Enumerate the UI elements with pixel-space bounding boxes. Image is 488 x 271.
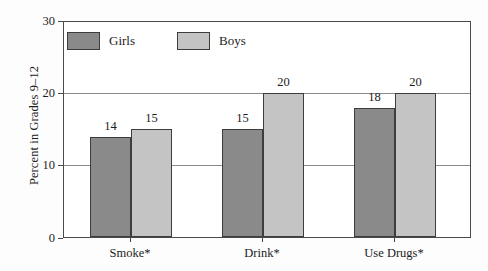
- bar-drugs-girls[interactable]: [354, 108, 395, 237]
- bar-drugs-boys[interactable]: [395, 93, 436, 237]
- bar-value-smoke-boys: 15: [131, 112, 172, 124]
- bar-smoke-boys[interactable]: [131, 129, 172, 237]
- bar-value-drink-girls: 15: [222, 112, 263, 124]
- bar-drink-girls[interactable]: [222, 129, 263, 237]
- bar-smoke-girls[interactable]: [90, 137, 131, 237]
- x-tick-mark-1: [130, 238, 131, 242]
- y-tick-label-0: 0: [49, 232, 55, 244]
- plot-area: 14 15 15 20 18 20: [63, 21, 471, 238]
- y-tick-label-30: 30: [43, 15, 56, 27]
- x-tick-mark-2: [262, 238, 263, 242]
- boys-swatch-icon: [177, 32, 210, 50]
- bar-value-drugs-girls: 18: [354, 91, 395, 103]
- bar-drink-boys[interactable]: [263, 93, 304, 237]
- y-tick-label-10: 10: [43, 159, 56, 171]
- bar-value-smoke-girls: 14: [90, 120, 131, 132]
- girls-swatch-icon: [67, 32, 100, 50]
- y-axis-title: Percent in Grades 9–12: [27, 26, 42, 226]
- bar-value-drink-boys: 20: [263, 76, 304, 88]
- bar-chart-figure: 30 20 10 0 Percent in Grades 9–12 14 15 …: [0, 0, 488, 271]
- y-axis: 30 20 10 0 Percent in Grades 9–12: [0, 0, 63, 271]
- x-label-smoke: Smoke*: [80, 246, 180, 260]
- legend-entry-boys[interactable]: Boys: [177, 32, 246, 50]
- x-label-usedrugs: Use Drugs*: [344, 246, 444, 260]
- legend-entry-girls[interactable]: Girls: [67, 32, 135, 50]
- bar-value-drugs-boys: 20: [395, 76, 436, 88]
- y-tick-mark-0: [58, 238, 63, 239]
- legend-label-boys: Boys: [219, 33, 246, 49]
- legend-label-girls: Girls: [109, 33, 135, 49]
- x-label-drink: Drink*: [212, 246, 312, 260]
- x-tick-mark-3: [394, 238, 395, 242]
- y-tick-label-20: 20: [43, 87, 56, 99]
- chart-legend: Girls Boys: [67, 32, 246, 50]
